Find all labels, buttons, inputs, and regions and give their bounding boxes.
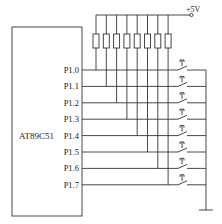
pullup-resistor — [134, 34, 140, 48]
pin-label: P1.3 — [64, 114, 79, 124]
pullup-resistor — [165, 34, 171, 48]
pin-label: P1.1 — [64, 81, 79, 91]
push-switch — [178, 158, 187, 168]
push-switch — [178, 60, 187, 70]
push-switch — [178, 109, 187, 119]
pullup-resistor — [145, 34, 151, 48]
pin-label: P1.5 — [64, 147, 79, 157]
push-switch — [178, 76, 187, 86]
pullup-resistor — [103, 34, 109, 48]
push-switch — [178, 126, 187, 136]
push-switch — [178, 93, 187, 103]
pin-label: P1.7 — [64, 180, 79, 190]
pullup-resistor — [114, 34, 120, 48]
chip-label: AT89C51 — [19, 131, 54, 141]
pin-label: P1.6 — [64, 163, 79, 173]
pin-label: P1.4 — [64, 131, 80, 141]
push-switch — [178, 175, 187, 185]
supply-label: +5V — [186, 5, 201, 14]
circuit-diagram: AT89C51 +5V P1.0P1.1P1.2P1.3P1.4P1.5P1.6… — [0, 0, 222, 224]
pin-label: P1.0 — [64, 65, 79, 75]
pullup-resistor — [124, 34, 130, 48]
pin-label: P1.2 — [64, 98, 79, 108]
push-switch — [178, 142, 187, 152]
pullup-resistor — [93, 34, 99, 48]
pullup-resistor — [155, 34, 161, 48]
